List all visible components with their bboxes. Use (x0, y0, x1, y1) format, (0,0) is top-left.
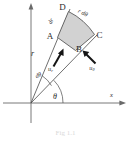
y-axis-arrowhead (29, 3, 34, 10)
u-r-vector-shaft (54, 53, 62, 67)
x-axis-label: x (109, 91, 113, 98)
dimension-label-r: r (31, 49, 35, 58)
axis-labels-group: x (109, 91, 113, 98)
d-theta-arc (42, 76, 51, 86)
dimension-label-d-theta: dθ (34, 70, 42, 79)
u-theta-label-subscript: θ (92, 67, 95, 72)
u-r-label-subscript: r (51, 68, 53, 73)
caption-band: Fig 1.1 (0, 127, 131, 141)
u-theta-vector-shaft (86, 54, 96, 64)
dimension-label-r-dtheta: r dθ (77, 7, 89, 18)
polar-element-figure: D A C B dr r dθ r dθ θ ur uθ x (0, 0, 131, 141)
lower-radial-ray (31, 35, 97, 103)
figure-canvas: D A C B dr r dθ r dθ θ ur uθ x (0, 0, 131, 141)
point-label-b: B (76, 44, 82, 54)
point-label-a: A (47, 31, 54, 41)
point-label-c: C (96, 30, 102, 40)
u-theta-label: uθ (89, 64, 95, 73)
x-axis-arrowhead (119, 101, 126, 106)
dimension-label-theta: θ (53, 92, 57, 101)
u-r-label: ur (48, 65, 53, 74)
dimension-label-dr: dr (46, 17, 55, 25)
figure-caption: Fig 1.1 (0, 129, 131, 137)
point-label-d: D (59, 2, 66, 12)
